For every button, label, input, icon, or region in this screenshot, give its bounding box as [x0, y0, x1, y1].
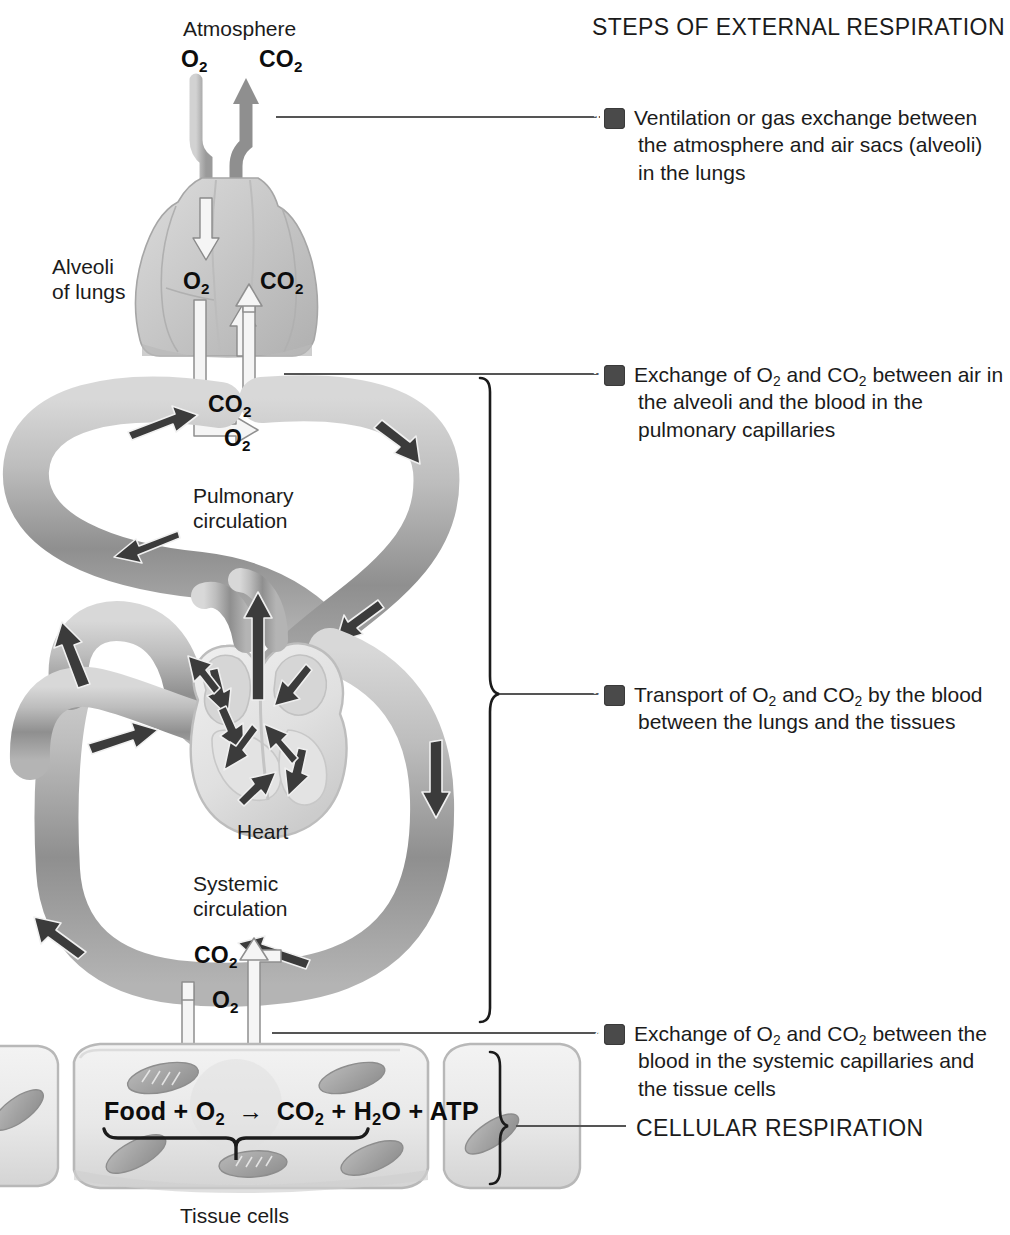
equation-co2: CO2 — [277, 1097, 325, 1125]
gas-label-o2-atmosphere: O2 — [181, 46, 208, 73]
alveoli-label-line1: Alveoli — [52, 255, 126, 280]
gas-label-o2-alveoli: O2 — [183, 268, 210, 295]
alveoli-label-line2: of lungs — [52, 280, 126, 305]
step-3: 3Transport of O2 and CO2 by the blood be… — [604, 681, 1004, 736]
tissue-cells-label: Tissue cells — [180, 1204, 289, 1229]
equation-arrow: → — [232, 1097, 269, 1125]
respiration-diagram: Atmosphere Alveoli of lungs Pulmonary ci… — [0, 0, 1010, 1235]
step-2: 2Exchange of O2 and CO2 between air in t… — [604, 361, 1004, 443]
gas-label-co2-pulmonary: CO2 — [208, 391, 252, 418]
cellular-respiration-label: CELLULAR RESPIRATION — [636, 1115, 923, 1142]
equation-atp: ATP — [430, 1097, 479, 1125]
alveoli-of-lungs-label: Alveoli of lungs — [52, 255, 126, 305]
step-3-text: Transport of O2 and CO2 by the blood bet… — [634, 683, 983, 733]
equation-food: Food — [104, 1097, 166, 1125]
equation-o2: O2 — [196, 1097, 225, 1125]
step-1: 1Ventilation or gas exchange between the… — [604, 104, 1004, 186]
equation-h2o: H2O — [354, 1097, 402, 1125]
pulmonary-label-line2: circulation — [193, 509, 293, 534]
brace-step-3 — [480, 378, 499, 1022]
atmosphere-label: Atmosphere — [183, 17, 296, 42]
step-2-badge: 2 — [604, 365, 625, 386]
step-1-text: Ventilation or gas exchange between the … — [634, 106, 982, 184]
gas-label-co2-alveoli: CO2 — [260, 268, 304, 295]
cellular-respiration-equation: Food + O2 → CO2 + H2O + ATP — [104, 1097, 479, 1126]
step-1-badge: 1 — [604, 108, 625, 129]
systemic-label-line1: Systemic — [193, 872, 288, 897]
gas-label-o2-systemic: O2 — [212, 987, 239, 1014]
heart-label: Heart — [237, 820, 288, 845]
step-3-badge: 3 — [604, 685, 625, 706]
step-4-text: Exchange of O2 and CO2 between the blood… — [634, 1022, 987, 1100]
systemic-circulation-label: Systemic circulation — [193, 872, 288, 922]
step-4-badge: 4 — [604, 1024, 625, 1045]
pulmonary-label-line1: Pulmonary — [193, 484, 293, 509]
pulmonary-circulation-label: Pulmonary circulation — [193, 484, 293, 534]
gas-label-o2-pulmonary: O2 — [224, 425, 251, 452]
page-title: STEPS OF EXTERNAL RESPIRATION — [592, 14, 1005, 41]
step-2-text: Exchange of O2 and CO2 between air in th… — [634, 363, 1003, 441]
gas-label-co2-atmosphere: CO2 — [259, 46, 303, 73]
step-4: 4Exchange of O2 and CO2 between the bloo… — [604, 1020, 1004, 1102]
systemic-label-line2: circulation — [193, 897, 288, 922]
gas-label-co2-systemic: CO2 — [194, 942, 238, 969]
